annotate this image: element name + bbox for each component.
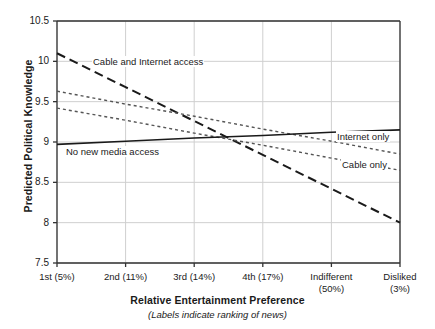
y-tick-label: 9.5 bbox=[15, 97, 49, 107]
series-label-internet-only: Internet only bbox=[336, 131, 390, 142]
series-label-no-new-media-access: No new media access bbox=[65, 146, 160, 157]
series-label-cable-only: Cable only bbox=[341, 159, 388, 170]
x-tick-label-line: Disliked bbox=[357, 271, 435, 283]
x-tick-label-line: (3%) bbox=[357, 283, 435, 295]
y-tick-label: 9 bbox=[15, 137, 49, 147]
chart-figure: Predicted Political Knowledge 7.588.599.… bbox=[0, 0, 435, 329]
y-tick-label: 7.5 bbox=[15, 258, 49, 268]
y-tick-label: 10.5 bbox=[15, 16, 49, 26]
x-tick-label: Disliked(3%) bbox=[357, 271, 435, 294]
y-axis-title: Predicted Political Knowledge bbox=[22, 46, 34, 226]
x-axis-title: Relative Entertainment Preference bbox=[0, 294, 435, 306]
series-line-internet-only bbox=[57, 91, 400, 154]
y-tick-label: 8 bbox=[15, 218, 49, 228]
y-tick-label: 8.5 bbox=[15, 177, 49, 187]
x-axis-subtitle: (Labels indicate ranking of news) bbox=[0, 309, 435, 320]
series-label-cable-and-internet-access: Cable and Internet access bbox=[92, 56, 204, 67]
y-tick-label: 10 bbox=[15, 56, 49, 66]
